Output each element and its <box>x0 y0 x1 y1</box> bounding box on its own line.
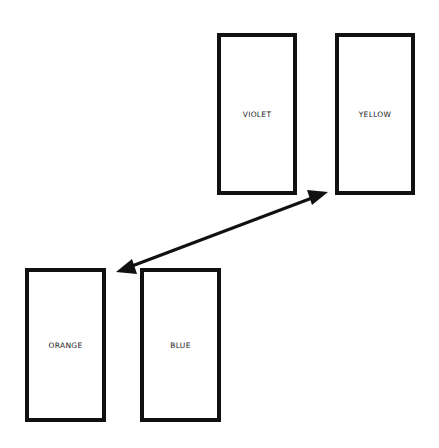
violet-label: VIOLET <box>243 110 272 119</box>
orange-label: ORANGE <box>49 341 83 350</box>
orange-box: ORANGE <box>25 268 106 422</box>
yellow-label: YELLOW <box>359 110 392 119</box>
blue-box: BLUE <box>140 268 221 422</box>
yellow-box: YELLOW <box>335 33 415 195</box>
blue-label: BLUE <box>170 341 190 350</box>
diagram-canvas: VIOLET YELLOW ORANGE BLUE <box>0 0 439 448</box>
violet-box: VIOLET <box>217 33 297 195</box>
